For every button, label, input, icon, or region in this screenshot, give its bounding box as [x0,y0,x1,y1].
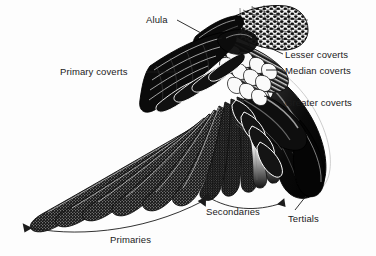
label-greater-coverts: Greater coverts [285,97,352,108]
bird-wing-illustration [0,0,376,256]
label-alula: Alula [146,14,168,25]
label-primary-coverts: Primary coverts [60,66,127,77]
figure-canvas: Alula Primary coverts Lesser coverts Med… [0,0,376,256]
label-secondaries: Secondaries [206,206,260,217]
label-primaries: Primaries [110,234,151,245]
label-tertials: Tertials [288,213,319,224]
label-lesser-coverts: Lesser coverts [285,49,348,60]
label-median-coverts: Median coverts [285,65,351,76]
